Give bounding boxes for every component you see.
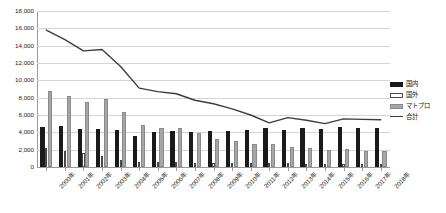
y-axis-tick-label: 6,000 [0,111,34,118]
legend-label-goukei: 合計 [406,114,418,120]
x-axis-tick-mark [381,168,382,171]
y-axis-tick-label: 14,000 [0,42,34,49]
x-axis-tick-mark [269,168,270,171]
x-axis-tick-mark [46,168,47,171]
x-axis-tick-mark [325,168,326,171]
y-axis-tick-label: 10,000 [0,76,34,83]
x-axis-tick-label: 2000年 [57,170,77,190]
x-axis-tick-label: 2014年 [317,170,337,190]
x-axis-tick-mark [214,168,215,171]
x-axis-tick-mark [362,168,363,171]
x-axis-tick-label: 2005年 [150,170,170,190]
x-axis-tick-mark [195,168,196,171]
total-line-series [37,11,390,167]
x-axis-tick-mark [251,168,252,171]
x-axis-tick-label: 2012年 [280,170,300,190]
legend-swatch-kokunai [390,82,403,87]
legend-item-kokugai: 国外 [390,90,446,100]
legend-label-kokunai: 国内 [406,81,418,87]
y-axis-tick-label: 2,000 [0,146,34,153]
legend-swatch-matopuro [390,104,403,109]
plot-area [37,11,390,167]
y-axis-tick-label: 8,000 [0,94,34,101]
y-axis-tick-label: 0 [0,163,34,170]
y-axis-tick-label: 16,000 [0,24,34,31]
legend-swatch-kokugai [390,93,403,98]
legend-swatch-goukei [390,116,403,118]
legend-label-kokugai: 国外 [406,92,418,98]
x-axis-tick-mark [139,168,140,171]
y-axis-tick-label: 4,000 [0,128,34,135]
y-axis-tick-label: 12,000 [0,59,34,66]
x-axis-tick-label: 2018年 [391,170,411,190]
x-axis-tick-label: 2013年 [299,170,319,190]
x-axis-tick-label: 2007年 [187,170,207,190]
x-axis-tick-mark [65,168,66,171]
x-axis-tick-label: 2009年 [224,170,244,190]
legend-label-matopuro: マトプロ [406,103,430,109]
x-axis-tick-label: 2004年 [131,170,151,190]
x-axis-tick-mark [102,168,103,171]
x-axis-tick-mark [83,168,84,171]
x-axis-tick-label: 2008年 [206,170,226,190]
legend-item-goukei: 合計 [390,112,446,122]
x-axis-tick-label: 2015年 [336,170,356,190]
x-axis-tick-label: 2016年 [354,170,374,190]
x-axis-tick-label: 2017年 [373,170,393,190]
x-axis-tick-mark [158,168,159,171]
x-axis-tick-mark [344,168,345,171]
chart-container: 02,0004,0006,0008,00010,00012,00014,0001… [0,0,446,213]
x-axis-tick-label: 2010年 [243,170,263,190]
legend-item-matopuro: マトプロ [390,101,446,111]
x-axis-tick-label: 2011年 [261,170,281,190]
x-axis-tick-mark [176,168,177,171]
legend-item-kokunai: 国内 [390,79,446,89]
x-axis-tick-labels: 2000年2001年2002年2003年2004年2005年2006年2007年… [37,168,390,213]
x-axis-tick-mark [232,168,233,171]
x-axis-tick-label: 2001年 [76,170,96,190]
x-axis-tick-label: 2002年 [94,170,114,190]
x-axis-tick-label: 2003年 [113,170,133,190]
x-axis-tick-mark [306,168,307,171]
x-axis-tick-mark [288,168,289,171]
x-axis-tick-mark [121,168,122,171]
chart-legend: 国内 国外 マトプロ 合計 [390,79,446,123]
x-axis-tick-label: 2006年 [169,170,189,190]
y-axis-tick-label: 18,000 [0,7,34,14]
